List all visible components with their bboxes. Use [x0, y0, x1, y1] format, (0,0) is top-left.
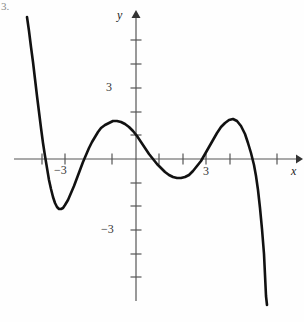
polynomial-curve: [27, 17, 267, 305]
y-axis-group: [131, 10, 142, 301]
y-tick-label-pos3: 3: [106, 80, 112, 95]
y-axis-label: y: [117, 8, 122, 23]
x-axis-arrowhead: [296, 155, 303, 164]
x-axis-label: x: [291, 164, 296, 179]
x-tick-label-pos3: 3: [203, 164, 209, 179]
y-tick-label-neg3: −3: [101, 222, 114, 237]
graph-figure: 3.: [0, 0, 304, 322]
coordinate-plot: [0, 0, 304, 322]
x-tick-label-neg3: −3: [54, 163, 67, 178]
y-axis-arrowhead: [132, 10, 141, 18]
